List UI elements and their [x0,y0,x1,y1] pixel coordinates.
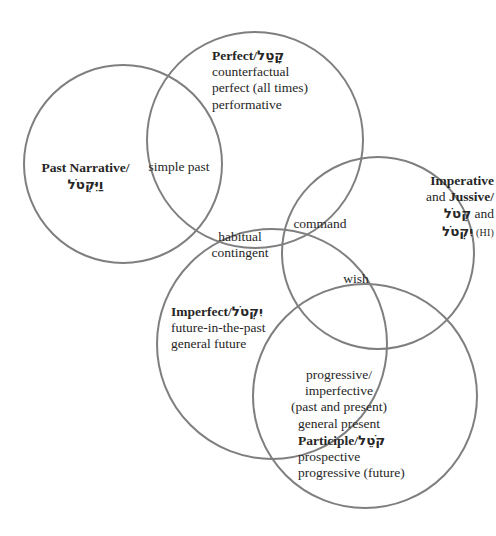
imperative-hebrew: קְטֹל [444,205,471,221]
command-text: command [293,216,346,231]
progressive-line-4: general present [298,416,380,431]
imperative-conjunction-2: and [471,206,494,221]
label-simple-past: simple past [136,159,222,175]
habitual-line-2: contingent [212,245,269,260]
jussive-title: Jussive/ [449,189,494,204]
label-past-narrative: Past Narrative/ וַיִּקְטֹל [28,160,143,193]
imperative-conjunction-1: and [426,189,449,204]
label-imperative-jussive: Imperative and Jussive/ קְטֹל and יִקְטֹ… [376,173,494,240]
imperfect-hebrew: יִקְטֹל [232,303,263,319]
past-narrative-hebrew: וַיִּקְטֹל [68,176,104,192]
label-perfect: Perfect/קָטַל counterfactual perfect (al… [212,47,372,113]
past-narrative-title: Past Narrative/ [41,160,129,175]
progressive-line-3: (past and present) [291,399,387,414]
label-wish: wish [334,271,378,287]
jussive-hebrew: יִקְטֹל [442,223,473,239]
progressive-line-1: progressive/ [306,367,372,382]
simple-past-text: simple past [148,159,209,174]
perfect-line-2: perfect (all times) [212,80,308,95]
participle-line-1: prospective [298,449,360,464]
perfect-hebrew: קָטַל [257,47,284,63]
imperfect-line-2: general future [171,336,246,351]
wish-text: wish [343,271,369,286]
label-habitual-contingent: habitual contingent [198,229,282,261]
label-command: command [283,216,357,232]
participle-line-2: progressive (future) [298,465,405,480]
participle-title: Participle/ [298,433,358,448]
imperfect-title: Imperfect/ [171,304,232,319]
venn-diagram: Past Narrative/ וַיִּקְטֹל simple past P… [0,0,496,536]
perfect-line-1: counterfactual [212,64,289,79]
imperative-title: Imperative [430,173,494,188]
progressive-line-2: imperfective [305,383,373,398]
habitual-line-1: habitual [218,229,262,244]
label-participle: Participle/קֹטֵל prospective progressive… [298,432,470,482]
perfect-line-3: performative [212,97,282,112]
label-imperfect: Imperfect/יִקְטֹל future-in-the-past gen… [171,303,311,353]
jussive-suffix: (HI) [473,227,494,238]
label-progressive-imperfective: progressive/ imperfective (past and pres… [276,367,402,432]
imperfect-line-1: future-in-the-past [171,320,265,335]
participle-hebrew: קֹטֵל [358,432,385,448]
perfect-title: Perfect/ [212,48,257,63]
